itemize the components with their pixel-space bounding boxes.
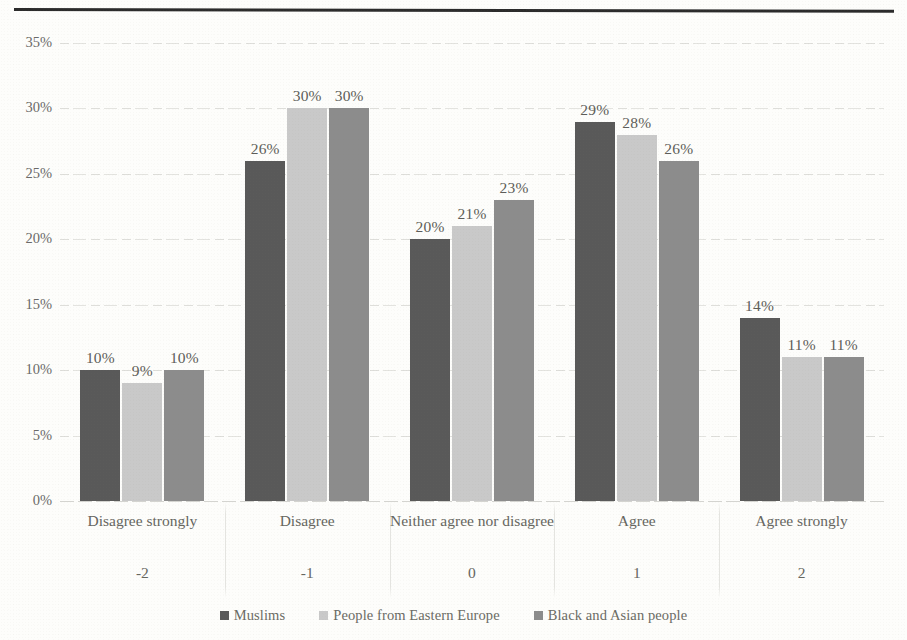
y-axis-tick-text: 35% [25, 34, 52, 50]
bar-value-label: 14% [745, 297, 774, 315]
bar[interactable]: 23% [494, 200, 534, 501]
bar-fill [617, 135, 657, 501]
bar-value-label: 28% [622, 114, 651, 132]
bar[interactable]: 14% [740, 318, 780, 501]
y-axis-tick-label: 30% [4, 98, 52, 116]
bar-group: 29%28%26% [575, 43, 699, 501]
bar-group: 20%21%23% [410, 43, 534, 501]
bar-fill [494, 200, 534, 501]
bar[interactable]: 10% [80, 370, 120, 501]
y-axis-tick-text: 15% [25, 296, 52, 312]
bar-value-label: 10% [170, 349, 199, 367]
category-code-label: -1 [225, 564, 390, 582]
bar-group: 14%11%11% [740, 43, 864, 501]
legend-label: People from Eastern Europe [333, 607, 499, 624]
bar-value-label: 10% [86, 349, 115, 367]
y-axis-tick-text: 10% [25, 361, 52, 377]
y-axis-tick-text: 0% [33, 492, 52, 508]
category-code-label: 1 [554, 564, 719, 582]
bar-value-label: 11% [787, 336, 815, 354]
y-axis-tick-label: 35% [4, 33, 52, 51]
plot-area: 10%9%10%26%30%30%20%21%23%29%28%26%14%11… [60, 43, 884, 501]
legend-label: Muslims [234, 607, 285, 624]
y-axis-tick-label: 20% [4, 229, 52, 247]
grouped-bar-chart: 0%5%10%15%20%25%30%35% 10%9%10%26%30%30%… [0, 0, 907, 640]
bar-fill [122, 383, 162, 501]
bar[interactable]: 21% [452, 226, 492, 501]
bar-fill [740, 318, 780, 501]
bar-value-label: 30% [335, 87, 364, 105]
bar-group: 10%9%10% [80, 43, 204, 501]
bar-value-label: 30% [293, 87, 322, 105]
bar-fill [287, 108, 327, 501]
bar[interactable]: 20% [410, 239, 450, 501]
bar[interactable]: 26% [659, 161, 699, 501]
legend-item[interactable]: Black and Asian people [534, 607, 688, 624]
legend-swatch-icon [534, 611, 543, 620]
bar[interactable]: 9% [122, 383, 162, 501]
bar-fill [245, 161, 285, 501]
legend-label: Black and Asian people [548, 607, 688, 624]
bar-fill [575, 122, 615, 501]
bar-value-label: 26% [251, 140, 280, 158]
bar-value-label: 9% [132, 362, 153, 380]
legend-swatch-icon [220, 611, 229, 620]
category-axis: Disagree strongly-2Disagree-1Neither agr… [60, 502, 884, 600]
category-cell: Agree1 [554, 502, 719, 598]
bar-value-label: 11% [829, 336, 857, 354]
category-label: Disagree strongly [60, 511, 225, 530]
category-code-label: 0 [390, 564, 555, 582]
bar[interactable]: 11% [824, 357, 864, 501]
bar-fill [410, 239, 450, 501]
y-axis-tick-label: 0% [4, 491, 52, 509]
bar-value-label: 21% [457, 205, 486, 223]
bar[interactable]: 30% [287, 108, 327, 501]
category-label: Disagree [225, 511, 390, 530]
bar-fill [659, 161, 699, 501]
bar[interactable]: 11% [782, 357, 822, 501]
category-cell: Agree strongly2 [719, 502, 884, 598]
bar-fill [782, 357, 822, 501]
bar-value-label: 29% [580, 101, 609, 119]
category-label: Neither agree nor disagree [390, 511, 555, 530]
y-axis-tick-text: 5% [33, 427, 52, 443]
bar[interactable]: 30% [329, 108, 369, 501]
bar-fill [80, 370, 120, 501]
y-axis-tick-text: 20% [25, 230, 52, 246]
y-axis-tick-label: 15% [4, 295, 52, 313]
legend-item[interactable]: Muslims [220, 607, 285, 624]
category-label: Agree strongly [719, 511, 884, 530]
bar[interactable]: 26% [245, 161, 285, 501]
legend-item[interactable]: People from Eastern Europe [319, 607, 499, 624]
category-code-label: -2 [60, 564, 225, 582]
category-cell: Disagree strongly-2 [60, 502, 225, 598]
category-cell: Disagree-1 [225, 502, 390, 598]
bar-fill [329, 108, 369, 501]
legend-swatch-icon [319, 611, 328, 620]
bar-value-label: 20% [415, 218, 444, 236]
bar-value-label: 23% [499, 179, 528, 197]
bar-group: 26%30%30% [245, 43, 369, 501]
bar-fill [452, 226, 492, 501]
y-axis-tick-text: 30% [25, 99, 52, 115]
bar[interactable]: 28% [617, 135, 657, 501]
category-code-label: 2 [719, 564, 884, 582]
bar-fill [824, 357, 864, 501]
category-cell: Neither agree nor disagree0 [390, 502, 555, 598]
chart-legend: MuslimsPeople from Eastern EuropeBlack a… [0, 607, 907, 624]
y-axis-tick-label: 10% [4, 360, 52, 378]
bar[interactable]: 10% [164, 370, 204, 501]
bar-fill [164, 370, 204, 501]
bar[interactable]: 29% [575, 122, 615, 501]
y-axis-tick-text: 25% [25, 165, 52, 181]
category-label: Agree [554, 511, 719, 530]
bar-value-label: 26% [664, 140, 693, 158]
y-axis-tick-label: 5% [4, 426, 52, 444]
y-axis-tick-label: 25% [4, 164, 52, 182]
